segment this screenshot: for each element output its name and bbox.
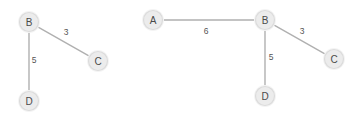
partial-graph: 35BCD [18,11,109,112]
edge-weight-label: 3 [64,27,69,37]
node-label: B [262,15,269,26]
node-label: C [94,56,101,67]
node-label: D [25,96,32,107]
edge-weight-label: 3 [300,26,305,36]
node-label: B [26,17,33,28]
edge-weight-label: 6 [204,26,209,36]
graph-canvas: 35BCD635ABCD [0,0,363,119]
node-label: D [261,91,268,102]
node-label: C [330,54,337,65]
edge-weight-label: 5 [32,55,37,65]
full-graph: 635ABCD [142,9,345,107]
graph-diagram-svg: 35BCD635ABCD [0,0,363,119]
node-label: A [150,15,157,26]
edge-weight-label: 5 [269,52,274,62]
